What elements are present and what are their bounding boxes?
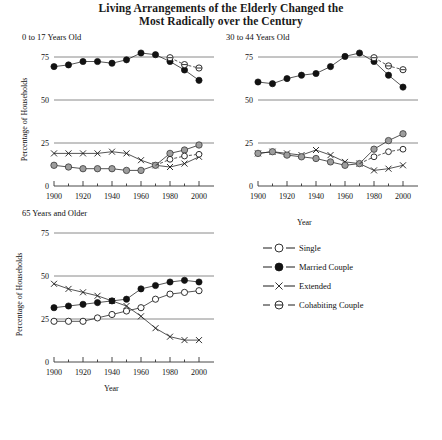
svg-text:50: 50 [245, 96, 253, 105]
svg-text:75: 75 [41, 53, 49, 62]
x-axis: 1900 1920 1940 1960 1980 2000 [250, 181, 418, 201]
svg-text:1980: 1980 [162, 192, 178, 201]
svg-text:1900: 1900 [250, 192, 266, 201]
svg-text:75: 75 [41, 229, 49, 238]
panel-0-17: 0 to 17 Years Old 75 50 25 0 [18, 32, 222, 204]
svg-text:50: 50 [41, 96, 49, 105]
legend-key-married-couple [262, 260, 296, 274]
x-axis-label-top-right: Year [297, 218, 312, 227]
series-married-couple [51, 50, 202, 84]
figure-title: Living Arrangements of the Elderly Chang… [0, 2, 442, 28]
svg-text:25: 25 [41, 139, 49, 148]
legend-label-married-couple: Married Couple [299, 262, 353, 272]
panel-65-older-title: 65 Years and Older [22, 208, 87, 218]
svg-text:1940: 1940 [308, 192, 324, 201]
y-tick-labels: 75 50 25 0 [245, 53, 253, 191]
series-cohabiting-couple-lower [360, 146, 406, 163]
panel-65-older-plot: 75 50 25 0 1900 1920 1940 [18, 208, 222, 380]
y-tick-labels: 75 50 25 0 [41, 53, 49, 191]
series-single [51, 142, 202, 174]
x-axis: 1900 1920 1940 1960 1980 2000 [46, 357, 214, 377]
panel-30-44: 30 to 44 Years Old 75 50 25 0 [222, 32, 434, 204]
legend-key-extended [262, 279, 296, 293]
svg-text:1960: 1960 [133, 368, 149, 377]
svg-text:1920: 1920 [75, 368, 91, 377]
figure-root: Living Arrangements of the Elderly Chang… [0, 0, 442, 440]
svg-text:1960: 1960 [133, 192, 149, 201]
svg-text:1980: 1980 [162, 368, 178, 377]
panel-0-17-title: 0 to 17 Years Old [22, 32, 81, 42]
figure-title-line2: Most Radically over the Century [0, 15, 442, 28]
legend-key-cohabiting-couple [262, 298, 296, 312]
svg-text:1900: 1900 [46, 192, 62, 201]
svg-text:0: 0 [45, 182, 49, 191]
y-tick-labels: 75 50 25 0 [41, 229, 49, 367]
legend-key-single [262, 241, 296, 255]
svg-text:0: 0 [45, 358, 49, 367]
panel-0-17-plot: 75 50 25 0 1900 1920 19 [18, 32, 222, 204]
svg-text:1920: 1920 [75, 192, 91, 201]
panel-30-44-title: 30 to 44 Years Old [226, 32, 290, 42]
svg-text:25: 25 [41, 315, 49, 324]
svg-text:1940: 1940 [104, 192, 120, 201]
legend-item-married-couple[interactable]: Married Couple [262, 257, 363, 276]
svg-text:25: 25 [245, 139, 253, 148]
legend-item-cohabiting-couple[interactable]: Cohabiting Couple [262, 295, 363, 314]
legend-label-single: Single [299, 243, 321, 253]
svg-text:75: 75 [245, 53, 253, 62]
legend-item-extended[interactable]: Extended [262, 276, 363, 295]
panel-65-older: 65 Years and Older 75 50 25 0 [18, 208, 222, 380]
x-axis-label-bottom-left: Year [104, 384, 119, 393]
series-single [255, 131, 406, 169]
gridlines [54, 233, 214, 319]
svg-text:1960: 1960 [337, 192, 353, 201]
svg-text:2000: 2000 [395, 192, 411, 201]
svg-text:1900: 1900 [46, 368, 62, 377]
svg-text:1940: 1940 [104, 368, 120, 377]
svg-text:50: 50 [41, 272, 49, 281]
panel-30-44-plot: 75 50 25 0 1900 1920 1940 [222, 32, 434, 204]
legend: Single Married Couple Extended [262, 238, 363, 314]
series-married-couple [255, 50, 406, 90]
gridlines [258, 57, 418, 143]
gridlines [54, 57, 214, 143]
figure-title-line1: Living Arrangements of the Elderly Chang… [0, 2, 442, 15]
svg-text:1920: 1920 [279, 192, 295, 201]
svg-text:2000: 2000 [191, 368, 207, 377]
svg-text:2000: 2000 [191, 192, 207, 201]
svg-text:0: 0 [249, 182, 253, 191]
legend-label-extended: Extended [299, 281, 331, 291]
x-axis: 1900 1920 1940 1960 1980 2000 [46, 181, 214, 201]
svg-text:1980: 1980 [366, 192, 382, 201]
legend-item-single[interactable]: Single [262, 238, 363, 257]
legend-label-cohabiting-couple: Cohabiting Couple [299, 300, 363, 310]
